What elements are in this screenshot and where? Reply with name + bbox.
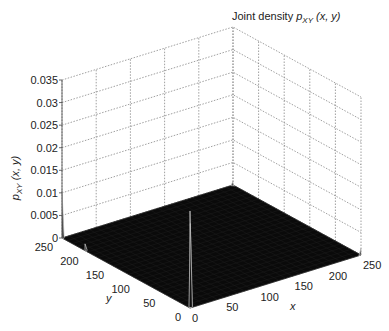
y-tick-label: 150 [86,269,104,281]
x-tick-label: 100 [260,291,278,303]
z-tick-label: 0.005 [30,209,58,221]
z-axis-label: pXY (x, y) [9,156,24,202]
y-tick-label: 250 [35,241,53,253]
z-tick-label: 0.015 [30,164,58,176]
y-tick-label: 0 [175,311,181,323]
x-tick-label: 50 [226,301,238,313]
x-tick-label: 200 [329,270,347,282]
x-axis-label: x [289,300,296,312]
x-tick-label: 250 [363,259,381,271]
chart-title: Joint density pXY (x, y) [232,10,341,25]
y-tick-label: 200 [60,255,78,267]
x-tick-label: 150 [295,280,313,292]
z-tick-label: 0.025 [30,119,58,131]
z-tick-label: 0.035 [30,74,58,86]
z-tick-label: 0.01 [37,187,58,199]
density-surface [62,181,361,308]
y-tick-label: 100 [111,283,129,295]
z-tick-label: 0.02 [37,142,58,154]
joint-density-surface-chart: 00.0050.010.0150.020.0250.030.0350501001… [0,0,389,331]
y-tick-label: 50 [143,297,155,309]
x-tick-label: 0 [192,312,198,324]
z-tick-label: 0.03 [37,97,58,109]
